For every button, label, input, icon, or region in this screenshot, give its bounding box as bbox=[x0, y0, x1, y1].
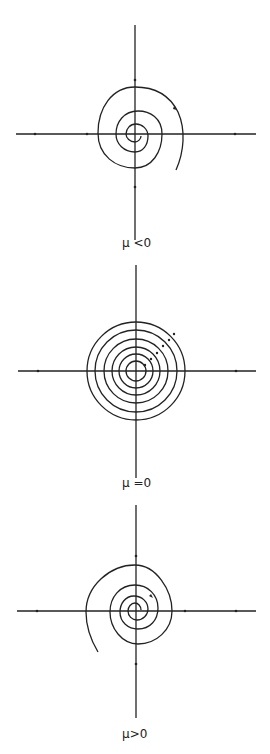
phase-portrait-figure: μ <0 μ =0 μ>0 bbox=[0, 0, 270, 754]
panel-mu-negative bbox=[16, 25, 256, 240]
spiral-trajectory bbox=[98, 87, 183, 170]
label-mu-positive: μ>0 bbox=[122, 727, 147, 741]
label-mu-zero: μ =0 bbox=[122, 476, 151, 490]
panel-mu-zero bbox=[18, 265, 256, 478]
panel-mu-positive bbox=[17, 505, 256, 718]
label-mu-negative: μ <0 bbox=[122, 236, 151, 250]
spiral-trajectory bbox=[86, 565, 172, 652]
